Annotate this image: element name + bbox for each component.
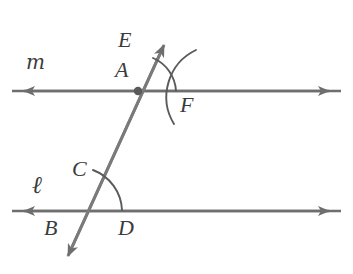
intersection-point-A <box>134 87 142 95</box>
point-label-F: F <box>180 94 193 116</box>
geometry-diagram: m ℓ E A F C B D <box>0 0 353 274</box>
point-label-A: A <box>115 59 128 81</box>
point-label-B: B <box>44 217 57 239</box>
line-label-m: m <box>26 52 45 72</box>
point-label-D: D <box>118 217 134 239</box>
transversal-down-arrow <box>68 54 160 256</box>
line-label-l: ℓ <box>32 173 42 197</box>
point-label-E: E <box>118 29 131 51</box>
point-label-C: C <box>72 158 87 180</box>
